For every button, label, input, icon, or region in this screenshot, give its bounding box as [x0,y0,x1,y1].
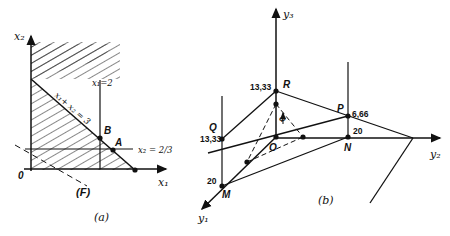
edge-q-p [208,116,348,153]
point-a-marker [110,147,115,152]
point-n-marker [345,134,350,139]
point-a-label: A [114,137,122,148]
edge-far-down [370,138,413,203]
point-inner-marker [273,101,278,106]
point-r-label: R [283,79,291,90]
point-p-marker [345,113,350,118]
point-y1-inner-marker [244,159,249,164]
axis-y2-label: y₂ [429,148,441,161]
value-q: 13,33 [200,134,222,144]
point-y2-inner-marker [300,134,305,139]
axis-x1-label: x₁ [158,176,169,189]
point-b-marker [97,135,102,140]
edge-r-far [276,91,413,138]
line-x2-label: x₂ = 2/3 [138,145,172,155]
value-r: 13,33 [250,82,272,92]
point-q-label: Q [209,122,217,133]
origin-label: 0 [18,170,24,181]
value-n: 20 [353,126,363,136]
point-p-label: P [337,103,344,114]
line-f-label: (F) [76,186,90,198]
point-n-label: N [344,142,352,153]
line-x1-label: x₁=2 [92,78,113,88]
point-m-marker [219,183,224,188]
figure-b: y₃ y₂ y₁ R 13,33 P 6,66 20 N O Q 13,33 2… [197,8,441,225]
point-b-label: B [104,125,111,136]
phi-label: Φ [279,115,286,124]
point-m-label: M [222,189,231,200]
figure-b-caption: (b) [318,194,334,207]
point-r-marker [273,88,278,93]
figure-a: x₂ x₁ 0 x₁=2 x₁+ x₂ = 3 x₂ = 2/3 B A (F)… [14,30,172,224]
y1-axis [202,137,276,209]
edge-r-q [222,91,276,139]
value-m: 20 [207,176,217,186]
axis-y1-label: y₁ [197,212,209,225]
axis-y3-label: y₃ [282,8,294,21]
point-end-marker [132,167,137,172]
point-o-marker [273,134,278,139]
value-p: 6,66 [352,109,369,119]
figure-a-caption: (a) [94,211,109,224]
figure-canvas: x₂ x₁ 0 x₁=2 x₁+ x₂ = 3 x₂ = 2/3 B A (F)… [0,0,450,236]
axis-x2-label: x₂ [14,30,25,43]
point-o-label: O [269,142,277,153]
